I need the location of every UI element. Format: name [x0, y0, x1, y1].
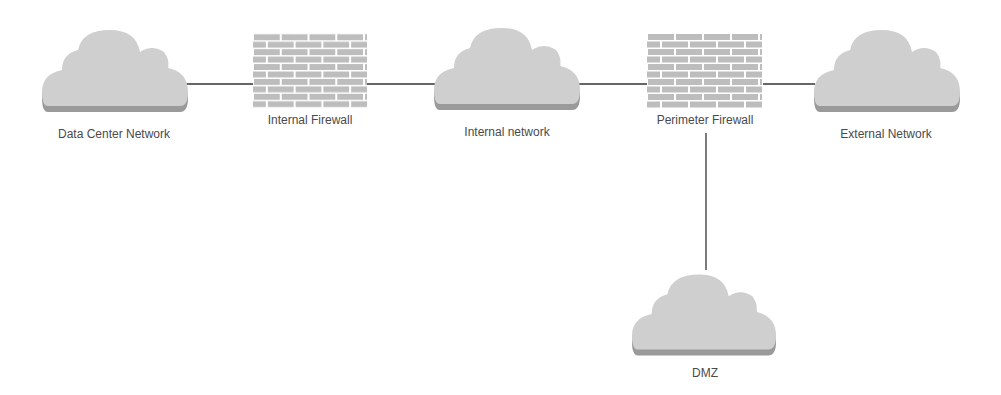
cloud-icon-data-center[interactable] [40, 22, 190, 130]
firewall-icon-internal[interactable] [253, 33, 367, 108]
label-dmz: DMZ [692, 366, 718, 380]
label-internal-firewall: Internal Firewall [268, 113, 353, 127]
firewall-icon-perimeter[interactable] [646, 33, 763, 108]
label-internal-network: Internal network [464, 125, 549, 139]
label-external-network: External Network [840, 127, 931, 141]
label-data-center: Data Center Network [58, 127, 170, 141]
cloud-icon-dmz[interactable] [630, 266, 778, 374]
cloud-icon-external[interactable] [812, 22, 962, 130]
label-perimeter-firewall: Perimeter Firewall [657, 113, 754, 127]
cloud-icon-internal[interactable] [432, 20, 582, 128]
